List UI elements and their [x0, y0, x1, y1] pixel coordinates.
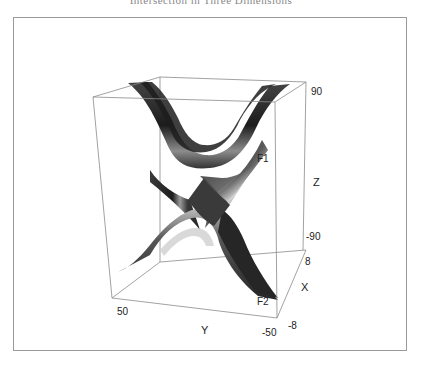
- x-tick-bottom: -8: [288, 320, 297, 331]
- z-axis-title: Z: [313, 176, 320, 188]
- y-axis-title: Y: [201, 324, 209, 336]
- surface-label-f2: F2: [257, 296, 269, 307]
- z-tick-bottom: -90: [306, 231, 321, 242]
- x-tick-top: 8: [305, 256, 311, 267]
- y-tick-right: -50: [262, 327, 277, 338]
- surface-plot: 90 Z -90 8 X -8 -50 Y 50 F1 F2: [0, 0, 422, 367]
- x-axis-title: X: [301, 281, 309, 293]
- surface-f2: [118, 160, 278, 300]
- surface-label-f1: F1: [257, 153, 269, 164]
- z-tick-top: 90: [311, 86, 323, 97]
- y-tick-left: 50: [117, 306, 129, 317]
